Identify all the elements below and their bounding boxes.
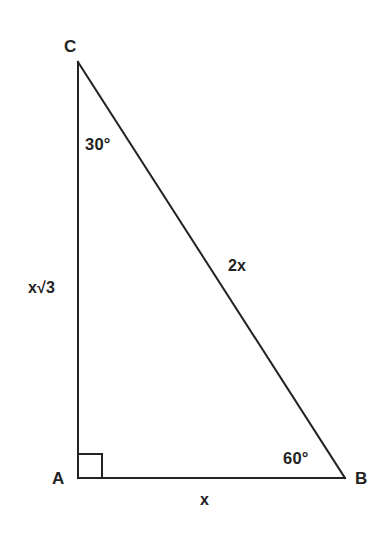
diagram-canvas: C A B 30° 60° x√3 x 2x <box>0 0 382 534</box>
side-label-ac: x√3 <box>28 280 55 296</box>
vertex-label-b: B <box>355 470 367 487</box>
side-label-cb: 2x <box>228 258 246 274</box>
angle-label-c: 30° <box>85 136 111 153</box>
triangle-figure <box>0 0 382 534</box>
vertex-label-c: C <box>64 38 76 55</box>
right-angle-icon <box>78 454 102 478</box>
side-cb-line <box>78 62 345 478</box>
vertex-label-a: A <box>52 470 64 487</box>
side-label-ab: x <box>200 492 209 508</box>
angle-label-b: 60° <box>283 450 309 467</box>
